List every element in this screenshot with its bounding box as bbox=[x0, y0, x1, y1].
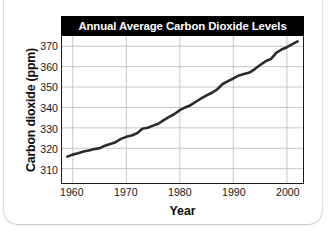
x-axis-title: Year bbox=[61, 204, 304, 218]
x-tick-label: 1970 bbox=[106, 187, 146, 198]
y-tick-label: 370 bbox=[34, 41, 58, 52]
y-tick-label: 310 bbox=[34, 164, 58, 175]
y-tick-label: 360 bbox=[34, 62, 58, 73]
x-axis-tick-labels: 19601970198019902000 bbox=[61, 187, 304, 201]
y-tick-label: 350 bbox=[34, 82, 58, 93]
chart-title-bar: Annual Average Carbon Dioxide Levels bbox=[61, 16, 304, 36]
plot-area bbox=[61, 36, 304, 184]
plot-inner bbox=[62, 36, 303, 183]
x-tick-label: 1960 bbox=[52, 187, 92, 198]
data-line-annual-average-co2 bbox=[67, 41, 297, 156]
y-axis-tick-labels: 310320330340350360370 bbox=[34, 16, 58, 184]
y-tick-label: 320 bbox=[34, 144, 58, 155]
line-chart-svg bbox=[62, 36, 303, 183]
chart-title: Annual Average Carbon Dioxide Levels bbox=[78, 20, 286, 32]
y-tick-label: 330 bbox=[34, 123, 58, 134]
chart-block: Annual Average Carbon Dioxide Levels bbox=[61, 16, 304, 184]
chart-page: Carbon dioxide (ppm) 3103203303403503603… bbox=[0, 0, 332, 236]
y-tick-label: 340 bbox=[34, 103, 58, 114]
x-tick-label: 2000 bbox=[268, 187, 308, 198]
x-tick-label: 1990 bbox=[214, 187, 254, 198]
x-tick-label: 1980 bbox=[160, 187, 200, 198]
